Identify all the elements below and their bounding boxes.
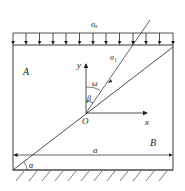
distributed-load xyxy=(13,33,173,44)
omega-label: ω xyxy=(92,79,98,88)
ground-hatching xyxy=(13,170,173,181)
region-b-label: B xyxy=(150,137,156,148)
stress-ray xyxy=(86,20,150,113)
x-axis-label: x xyxy=(144,117,149,127)
load-label: σₐ xyxy=(91,20,98,29)
origin-label: O xyxy=(82,116,89,126)
diagram: σₐ σ₁ y x O ω β A B a α xyxy=(0,0,185,191)
alpha-arc xyxy=(24,162,27,170)
width-label: a xyxy=(93,145,98,155)
ray-label: σ₁ xyxy=(110,53,117,62)
region-a-label: A xyxy=(22,66,30,77)
alpha-label-text: α xyxy=(29,161,34,170)
y-axis-label: y xyxy=(76,60,81,70)
diagram-svg: σₐ σ₁ y x O ω β A B a α xyxy=(0,0,185,191)
beta-label: β xyxy=(86,94,91,103)
